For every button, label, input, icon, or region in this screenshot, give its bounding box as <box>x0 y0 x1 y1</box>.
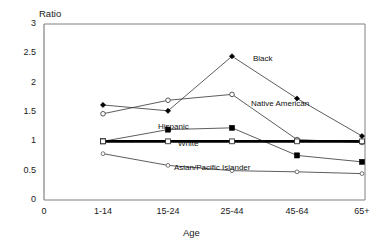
data-point-marker <box>359 159 364 164</box>
series-label-hispanic: Hispanic <box>158 122 189 131</box>
data-point-marker <box>101 152 105 156</box>
x-tick-label: 45-64 <box>285 206 308 216</box>
x-tick-label: 65+ <box>354 206 369 216</box>
x-tick-label: 0 <box>41 206 46 216</box>
data-point-marker <box>360 172 364 176</box>
data-point-marker <box>101 111 106 116</box>
data-point-marker <box>229 125 234 130</box>
series-line <box>103 94 362 142</box>
plot-area <box>0 0 382 247</box>
data-point-marker <box>294 153 299 158</box>
data-point-marker <box>230 139 235 144</box>
data-point-marker <box>101 139 106 144</box>
chart-container: Ratio Age 00.511.522.53 01-1415-2425-444… <box>0 0 382 247</box>
series-native-american <box>101 92 365 145</box>
data-point-marker <box>166 163 170 167</box>
series-label-native-american: Native American <box>251 99 309 108</box>
data-point-marker <box>230 92 235 97</box>
series-label-asian-pacific-islander: Asian/Pacific Islander <box>174 163 250 172</box>
data-point-marker <box>295 139 300 144</box>
data-point-marker <box>100 102 105 107</box>
y-tick-label: 0 <box>14 194 36 204</box>
data-point-marker <box>359 133 364 138</box>
series-white <box>101 139 365 144</box>
x-tick-label: 1-14 <box>94 206 112 216</box>
series-hispanic <box>100 125 364 164</box>
data-point-marker <box>295 170 299 174</box>
x-tick-label: 15-24 <box>156 206 179 216</box>
series-label-black: Black <box>253 54 273 63</box>
y-tick-label: 2.5 <box>14 47 36 57</box>
data-point-marker <box>360 139 365 144</box>
data-point-marker <box>166 98 171 103</box>
series-label-white: White <box>178 139 198 148</box>
y-tick-label: 1 <box>14 135 36 145</box>
y-tick-label: 3 <box>14 18 36 28</box>
data-point-marker <box>166 139 171 144</box>
y-tick-label: 0.5 <box>14 165 36 175</box>
series-line <box>103 128 362 162</box>
y-tick-label: 1.5 <box>14 106 36 116</box>
y-tick-label: 2 <box>14 77 36 87</box>
x-tick-label: 25-44 <box>220 206 243 216</box>
